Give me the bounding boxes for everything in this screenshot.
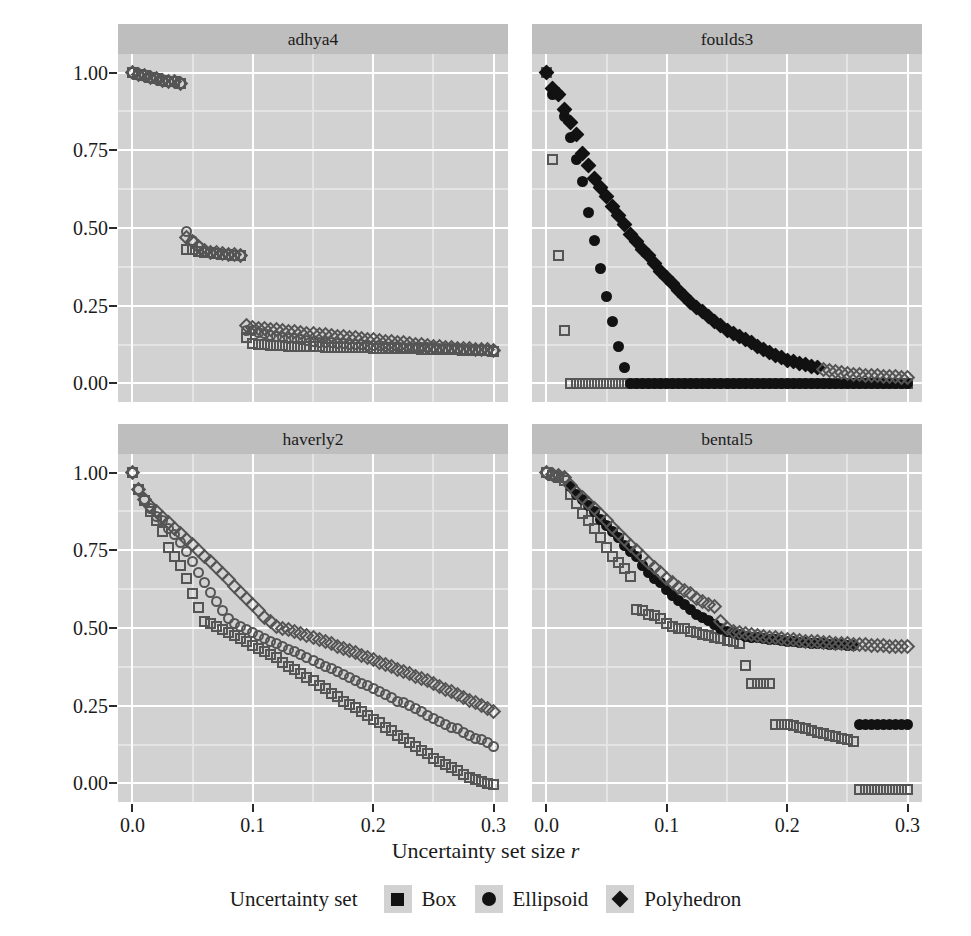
data-point-ellipsoid (595, 263, 606, 274)
data-point-box (488, 779, 499, 790)
y-axis-tick-label: 0.50 (46, 218, 108, 238)
x-axis-tick-mark (786, 804, 788, 812)
legend-title: Uncertainty set (230, 887, 358, 912)
gridline-major-horizontal (118, 782, 508, 784)
y-axis-tick-label: 0.25 (46, 696, 108, 716)
data-point-ellipsoid (187, 556, 198, 567)
y-axis-tick-mark (109, 627, 117, 629)
data-point-ellipsoid (613, 341, 624, 352)
gridline-minor-horizontal (118, 744, 508, 746)
legend-item-ellipsoid[interactable]: Ellipsoid (475, 885, 589, 913)
y-axis-tick-mark (109, 782, 117, 784)
gridline-major-horizontal (532, 72, 922, 74)
data-point-box (187, 588, 198, 599)
x-axis-tick-label: 0.0 (102, 815, 162, 835)
gridline-major-horizontal (118, 72, 508, 74)
x-axis-title: Uncertainty set size r (0, 838, 971, 864)
gridline-major-horizontal (118, 472, 508, 474)
data-point-ellipsoid (902, 719, 913, 730)
gridline-major-horizontal (118, 705, 508, 707)
gridline-minor-horizontal (118, 266, 508, 268)
y-axis-tick-mark (109, 549, 117, 551)
y-axis-tick-mark (109, 472, 117, 474)
gridline-major-horizontal (118, 382, 508, 384)
diamond-glyph (612, 891, 629, 908)
x-axis-title-text: Uncertainty set size (392, 838, 571, 863)
x-axis-tick-mark (545, 804, 547, 812)
gridline-minor-horizontal (118, 510, 508, 512)
x-axis-tick-label: 0.1 (223, 815, 283, 835)
data-point-box (559, 325, 570, 336)
gridline-minor-horizontal (532, 744, 922, 746)
y-axis-tick-mark (109, 149, 117, 151)
gridline-major-horizontal (532, 549, 922, 551)
facet-panel-bental5: bental5 (532, 424, 922, 802)
facet-plot-area (118, 54, 508, 402)
data-point-box (902, 784, 913, 795)
gridline-minor-horizontal (118, 110, 508, 112)
gridline-major-horizontal (532, 705, 922, 707)
diamond-icon (606, 885, 634, 913)
y-axis-tick-mark (109, 382, 117, 384)
gridline-major-horizontal (532, 472, 922, 474)
y-axis-tick-label: 0.25 (46, 296, 108, 316)
gridline-major-horizontal (532, 227, 922, 229)
facet-panel-adhya4: adhya4 (118, 24, 508, 402)
legend-item-box[interactable]: Box (384, 885, 457, 913)
data-point-box (181, 573, 192, 584)
gridline-major-horizontal (118, 305, 508, 307)
facet-plot-area (532, 454, 922, 802)
gridline-minor-horizontal (532, 188, 922, 190)
data-point-box (764, 678, 775, 689)
facet-strip-label: foulds3 (532, 24, 922, 54)
facet-strip-label: bental5 (532, 424, 922, 454)
data-point-box (193, 602, 204, 613)
data-point-ellipsoid (601, 291, 612, 302)
gridline-minor-horizontal (532, 266, 922, 268)
x-axis-tick-mark (131, 804, 133, 812)
data-point-ellipsoid (583, 207, 594, 218)
y-axis-title: Objective value / nominal objective valu… (0, 0, 28, 68)
circle-icon (475, 885, 503, 913)
gridline-major-horizontal (532, 305, 922, 307)
data-point-box (740, 660, 751, 671)
facet-plot-area (532, 54, 922, 402)
legend: Uncertainty set BoxEllipsoidPolyhedron (0, 885, 971, 913)
y-axis-tick-label: 1.00 (46, 463, 108, 483)
data-point-box (553, 250, 564, 261)
gridline-major-horizontal (532, 149, 922, 151)
gridline-major-horizontal (118, 149, 508, 151)
gridline-minor-horizontal (118, 588, 508, 590)
data-point-box (625, 571, 636, 582)
y-axis-tick-label: 0.75 (46, 140, 108, 160)
x-axis-tick-mark (666, 804, 668, 812)
legend-item-label: Box (422, 887, 457, 912)
data-point-box (175, 560, 186, 571)
square-icon (384, 885, 412, 913)
data-point-ellipsoid (607, 316, 618, 327)
y-axis-tick-mark (109, 305, 117, 307)
x-axis-tick-label: 0.3 (878, 815, 938, 835)
gridline-minor-horizontal (532, 588, 922, 590)
x-axis-tick-label: 0.2 (343, 815, 403, 835)
x-axis-tick-mark (907, 804, 909, 812)
gridline-minor-horizontal (118, 188, 508, 190)
y-axis-tick-mark (109, 72, 117, 74)
circle-glyph (482, 892, 496, 906)
legend-item-label: Polyhedron (644, 887, 741, 912)
data-point-ellipsoid (488, 741, 499, 752)
gridline-minor-horizontal (118, 666, 508, 668)
y-axis-tick-label: 0.00 (46, 373, 108, 393)
facet-panel-haverly2: haverly2 (118, 424, 508, 802)
data-point-ellipsoid (619, 362, 630, 373)
facet-strip-label: haverly2 (118, 424, 508, 454)
gridline-minor-horizontal (532, 344, 922, 346)
x-axis-tick-mark (372, 804, 374, 812)
data-point-ellipsoid (193, 567, 204, 578)
legend-item-polyhedron[interactable]: Polyhedron (606, 885, 741, 913)
y-axis-title-wrap: Objective value / nominal objective valu… (0, 0, 40, 830)
facet-strip-label: adhya4 (118, 24, 508, 54)
y-axis-tick-label: 0.50 (46, 618, 108, 638)
legend-item-label: Ellipsoid (513, 887, 589, 912)
gridline-major-horizontal (118, 227, 508, 229)
